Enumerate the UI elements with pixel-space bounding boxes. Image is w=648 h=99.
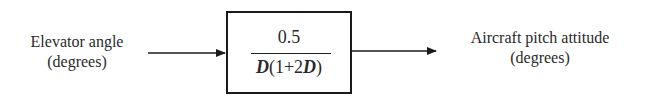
denominator-d2: D: [303, 57, 316, 77]
fraction-bar: [251, 53, 331, 54]
transfer-function-block: 0.5 D(1+2D): [226, 11, 352, 94]
numerator: 0.5: [228, 27, 350, 48]
denominator-mid: (1+2: [269, 57, 303, 77]
output-label-line2: (degrees): [440, 48, 640, 68]
output-label-line1: Aircraft pitch attitude: [440, 28, 640, 48]
denominator: D(1+2D): [228, 57, 350, 78]
output-label: Aircraft pitch attitude (degrees): [440, 28, 640, 68]
denominator-close: ): [316, 57, 322, 77]
denominator-d1: D: [256, 57, 269, 77]
